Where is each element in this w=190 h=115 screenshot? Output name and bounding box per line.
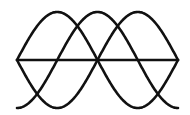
three-phase-waveform-diagram [0, 0, 190, 115]
